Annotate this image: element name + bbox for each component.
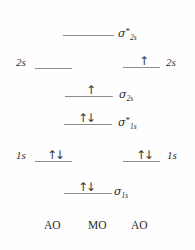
sigma-glyph-sigma-2s: σ (119, 88, 127, 101)
subscript-sigma-star-2s: 2s (130, 33, 137, 42)
ao-label-2s-right: 2s (166, 57, 176, 68)
level-label-sigma-2s: σ2s (119, 89, 133, 100)
electrons-sigma-star-1s: ↑↓ (78, 112, 94, 124)
column-caption-mo: MO (88, 219, 107, 231)
electrons-sigma-2s: ↑ (86, 84, 94, 96)
subscript-sigma-star-1s: 1s (130, 122, 137, 131)
column-caption-ao-left: AO (44, 219, 61, 231)
level-label-sigma-star-1s: σ*1s (118, 117, 137, 128)
level-label-sigma-1s: σ1s (114, 186, 128, 197)
electrons-ao-1s-left: ↑↓ (47, 149, 63, 161)
mo-energy-diagram: σ*2s 2s ↑ 2s ↑ σ2s ↑↓ σ*1s 1s ↑↓ ↑↓ 1s ↑… (0, 0, 195, 250)
electrons-sigma-1s: ↑↓ (78, 181, 94, 193)
level-label-sigma-star-2s: σ*2s (118, 28, 137, 39)
ao-label-2s-left: 2s (16, 57, 26, 68)
electrons-ao-1s-right: ↑↓ (136, 149, 152, 161)
level-line-ao-2s-left (35, 68, 72, 69)
electrons-ao-2s-right: ↑ (139, 55, 147, 67)
sigma-glyph-sigma-star-1s: σ (118, 116, 126, 129)
column-caption-ao-right: AO (131, 219, 148, 231)
subscript-sigma-2s: 2s (127, 94, 134, 103)
ao-label-1s-left: 1s (16, 150, 26, 161)
level-line-sigma-star-2s (63, 35, 114, 36)
sigma-glyph-sigma-star-2s: σ (118, 27, 126, 40)
ao-label-1s-right: 1s (167, 150, 177, 161)
sigma-glyph-sigma-1s: σ (114, 185, 122, 198)
subscript-sigma-1s: 1s (122, 191, 129, 200)
